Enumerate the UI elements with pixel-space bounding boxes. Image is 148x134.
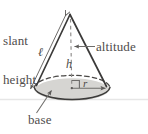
slant-height-label-line2: height xyxy=(3,73,36,86)
altitude-label: altitude xyxy=(96,40,136,53)
height-symbol-label: h xyxy=(66,57,72,72)
base-label: base xyxy=(28,113,52,126)
slant-height-symbol-label: ℓ xyxy=(38,45,43,60)
slant-height-label: slant height xyxy=(3,7,36,113)
cone-diagram-figure: slant height altitude base ℓ h r xyxy=(0,0,148,134)
slant-height-label-line1: slant xyxy=(3,34,36,47)
base-center-dot xyxy=(71,87,73,89)
radius-symbol-label: r xyxy=(83,77,87,89)
